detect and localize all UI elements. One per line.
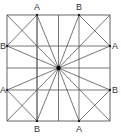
vertex-point	[78, 14, 80, 16]
vertex-point	[6, 89, 8, 91]
center-point	[56, 66, 60, 70]
point-label-a: A	[76, 125, 82, 134]
ray-to-point	[59, 68, 111, 90]
point-label-a: A	[112, 42, 118, 51]
point-label-b: B	[112, 86, 118, 95]
ray-to-point	[59, 68, 80, 121]
vertex-point	[109, 45, 111, 47]
point-label-b: B	[34, 125, 40, 134]
point-label-b: B	[76, 3, 82, 12]
geometry-diagram	[0, 0, 121, 138]
ray-to-point	[59, 46, 111, 68]
vertex-point	[109, 89, 111, 91]
point-label-b: B	[0, 42, 6, 51]
vertex-point	[78, 120, 80, 122]
vertex-point	[6, 45, 8, 47]
vertex-point	[36, 120, 38, 122]
point-label-a: A	[34, 3, 40, 12]
point-label-a: A	[0, 86, 6, 95]
ray-to-point	[59, 15, 80, 68]
vertex-point	[36, 14, 38, 16]
